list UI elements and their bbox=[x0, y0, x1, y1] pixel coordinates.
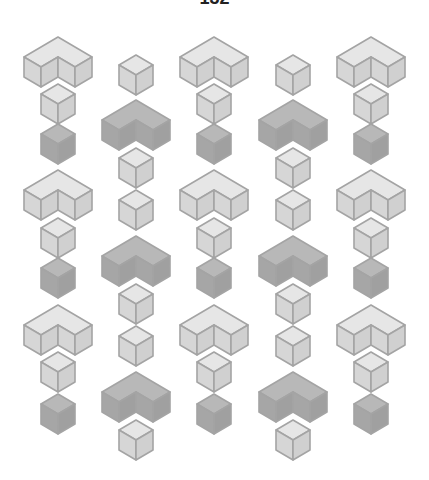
column-4 bbox=[259, 55, 327, 460]
cube-dark bbox=[41, 124, 75, 164]
cube-light bbox=[276, 420, 310, 460]
l-piece-light bbox=[337, 170, 405, 220]
cube-light bbox=[354, 84, 388, 124]
l-piece-light bbox=[180, 37, 248, 87]
cube-pattern-figure bbox=[0, 0, 429, 480]
l-piece-dark bbox=[259, 100, 327, 150]
l-piece-light bbox=[180, 170, 248, 220]
l-piece-dark bbox=[102, 372, 170, 422]
column-3 bbox=[180, 37, 248, 434]
cube-light bbox=[276, 284, 310, 324]
cube-dark bbox=[197, 394, 231, 434]
cube-dark bbox=[41, 394, 75, 434]
cube-light bbox=[119, 284, 153, 324]
cube-light bbox=[119, 55, 153, 95]
l-piece-dark bbox=[259, 372, 327, 422]
cube-light bbox=[197, 218, 231, 258]
l-piece-light bbox=[24, 37, 92, 87]
l-piece-dark bbox=[102, 100, 170, 150]
cube-dark bbox=[354, 258, 388, 298]
l-piece-light bbox=[24, 170, 92, 220]
cube-light bbox=[276, 326, 310, 366]
cube-light bbox=[276, 190, 310, 230]
cube-dark bbox=[41, 258, 75, 298]
cube-dark bbox=[354, 394, 388, 434]
cube-light bbox=[41, 352, 75, 392]
cube-light bbox=[41, 218, 75, 258]
cube-light bbox=[276, 148, 310, 188]
column-1 bbox=[24, 37, 92, 434]
column-5 bbox=[337, 37, 405, 434]
column-2 bbox=[102, 55, 170, 460]
cube-light bbox=[119, 326, 153, 366]
cube-light bbox=[41, 84, 75, 124]
l-piece-light bbox=[337, 37, 405, 87]
cube-light bbox=[354, 352, 388, 392]
cube-light bbox=[354, 218, 388, 258]
l-piece-light bbox=[180, 305, 248, 355]
cube-light bbox=[119, 190, 153, 230]
cube-light bbox=[119, 148, 153, 188]
cube-dark bbox=[197, 258, 231, 298]
cube-dark bbox=[197, 124, 231, 164]
l-piece-dark bbox=[259, 236, 327, 286]
cube-light bbox=[197, 352, 231, 392]
cube-light bbox=[276, 55, 310, 95]
cube-light bbox=[119, 420, 153, 460]
cube-light bbox=[197, 84, 231, 124]
l-piece-light bbox=[24, 305, 92, 355]
cube-dark bbox=[354, 124, 388, 164]
l-piece-dark bbox=[102, 236, 170, 286]
l-piece-light bbox=[337, 305, 405, 355]
